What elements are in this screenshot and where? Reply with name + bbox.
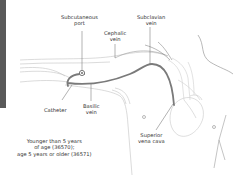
port-center [81,72,83,74]
nipple-mark [143,116,146,119]
label-superior-vena-cava: Superior vena cava [138,132,165,145]
label-line: port [61,20,98,26]
catheter-line [68,64,175,105]
caption-line: age 5 years or older (36571) [17,151,92,157]
torso-line [214,115,226,168]
label-subcutaneous-port: Subcutaneous port [61,14,98,27]
nipple-mark-right [213,126,216,129]
caption: Younger than 5 years of age (36570); age… [17,138,92,157]
label-subclavian-vein: Subclavian vein [137,14,165,27]
label-line: vein [83,109,100,115]
neck-outline [145,35,233,74]
label-basilic-vein: Basilic vein [83,103,100,116]
label-line: vein [104,36,126,42]
label-line: vena cava [138,138,165,144]
label-cephalic-vein: Cephalic vein [104,30,126,43]
label-line: Catheter [44,107,67,113]
label-catheter: Catheter [44,107,67,113]
heart-outline [170,95,203,136]
label-line: vein [137,20,165,26]
